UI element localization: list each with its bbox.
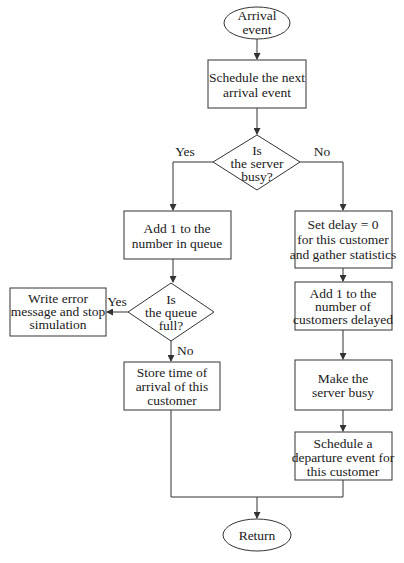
node-text: busy? [241, 169, 273, 184]
node-add-to-queue: Add 1 to the number in queue [124, 211, 231, 259]
node-arrival-event: Arrival event [224, 7, 290, 39]
node-text: simulation [30, 317, 87, 332]
label-server-busy-no: No [314, 144, 331, 159]
node-text: departure event for [292, 450, 395, 465]
node-text: Schedule a [314, 436, 373, 451]
node-text: Arrival [238, 8, 277, 23]
decision-queue-full: Is the queue full? [128, 283, 214, 341]
decision-server-busy: Is the server busy? [213, 135, 300, 190]
node-add-customers-delayed: Add 1 to the number of customers delayed [293, 282, 393, 330]
node-text: server busy [312, 385, 374, 400]
node-text: arrival event [223, 85, 291, 100]
node-schedule-departure: Schedule a departure event for this cust… [292, 432, 395, 480]
label-queue-full-no: No [177, 343, 194, 358]
node-make-server-busy: Make the server busy [295, 360, 392, 410]
node-schedule-next-arrival: Schedule the next arrival event [208, 60, 306, 108]
node-text: customers delayed [293, 312, 393, 327]
node-return: Return [223, 519, 291, 551]
node-store-arrival-time: Store time of arrival of this customer [124, 362, 220, 410]
node-text: event [242, 22, 271, 37]
node-text: this customer [307, 464, 380, 479]
edge-server-busy-yes [173, 162, 213, 210]
node-text: Return [239, 528, 276, 543]
node-text: Make the [318, 371, 369, 386]
node-text: for this customer [297, 232, 389, 247]
label-queue-full-yes: Yes [107, 294, 127, 309]
label-server-busy-yes: Yes [175, 144, 195, 159]
node-write-error: Write error message and stop simulation [10, 288, 106, 336]
node-text: Store time of [137, 365, 208, 380]
node-text: number in queue [132, 236, 223, 251]
node-text: and gather statistics [290, 247, 396, 262]
node-set-delay: Set delay = 0 for this customer and gath… [290, 211, 396, 268]
flowchart: Yes No Yes No Arrival event Schedule the… [0, 0, 404, 563]
node-text: arrival of this [136, 379, 209, 394]
node-text: full? [159, 318, 184, 333]
node-text: Schedule the next [209, 70, 305, 85]
node-text: Set delay = 0 [308, 217, 379, 232]
node-text: Add 1 to the [143, 221, 210, 236]
node-text: customer [147, 393, 197, 408]
edge-server-busy-no [300, 162, 343, 210]
